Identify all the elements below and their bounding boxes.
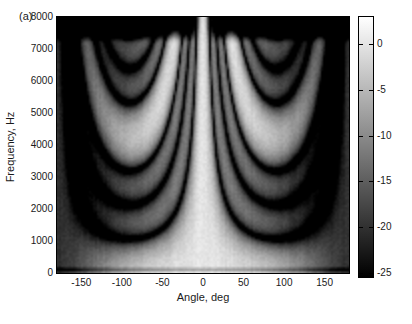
colorbar-tick-mark <box>369 227 373 228</box>
colorbar <box>358 16 374 278</box>
x-tick-label: -100 <box>100 277 144 289</box>
y-tick-label: 2000 <box>13 203 53 215</box>
colorbar-tick-mark <box>359 90 363 91</box>
colorbar-tick-mark <box>359 136 363 137</box>
x-tick-label: -150 <box>59 277 103 289</box>
figure-panel: (a) Frequency, Hz 0100020003000400050006… <box>0 0 412 324</box>
colorbar-tick-label: -20 <box>377 221 391 233</box>
y-tick-label: 1000 <box>13 235 53 247</box>
y-tick-label: 4000 <box>13 139 53 151</box>
colorbar-tick-mark <box>359 273 363 274</box>
y-tick-label: 3000 <box>13 171 53 183</box>
colorbar-tick-label: -15 <box>377 175 391 187</box>
x-axis-label: Angle, deg <box>177 291 230 303</box>
x-tick-label: 0 <box>181 277 225 289</box>
colorbar-tick-label: -25 <box>377 267 391 279</box>
colorbar-tick-mark <box>369 90 373 91</box>
colorbar-tick-mark <box>359 44 363 45</box>
colorbar-tick-mark <box>369 273 373 274</box>
colorbar-tick-label: -5 <box>377 84 386 96</box>
y-tick-label: 7000 <box>13 43 53 55</box>
colorbar-tick-label: -10 <box>377 130 391 142</box>
colorbar-tick-label: 0 <box>377 38 383 50</box>
colorbar-tick-mark <box>369 44 373 45</box>
y-tick-label: 8000 <box>13 11 53 23</box>
x-tick-label: 50 <box>222 277 266 289</box>
colorbar-tick-mark <box>369 181 373 182</box>
y-tick-label: 0 <box>13 267 53 279</box>
beampattern-heatmap-image <box>56 16 350 274</box>
colorbar-tick-mark <box>359 227 363 228</box>
x-tick-label: 100 <box>262 277 306 289</box>
y-tick-label: 6000 <box>13 75 53 87</box>
colorbar-tick-mark <box>359 181 363 182</box>
y-tick-label: 5000 <box>13 107 53 119</box>
x-tick-label: 150 <box>303 277 347 289</box>
colorbar-tick-mark <box>369 136 373 137</box>
x-tick-label: -50 <box>140 277 184 289</box>
